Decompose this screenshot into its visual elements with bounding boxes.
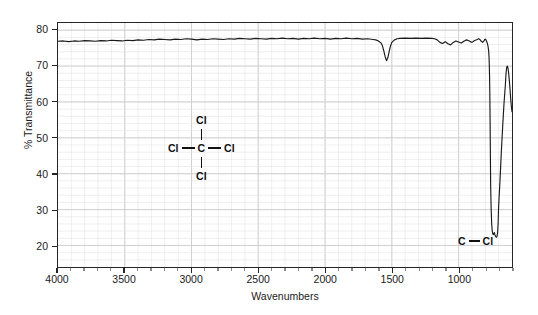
x-tick-mark-minor: [311, 268, 312, 271]
x-tick-label: 1500: [362, 273, 422, 285]
molecule-bond-top: [168, 127, 235, 141]
x-tick-label: 2000: [295, 273, 355, 285]
x-tick-mark-minor: [284, 268, 285, 271]
molecule-atom-center: C: [198, 143, 206, 154]
bond-vertical-bottom-icon: [201, 157, 203, 168]
bond-vertical-top-icon: [201, 129, 203, 140]
molecule-atom-right: Cl: [224, 143, 235, 154]
spectrum-curve: [58, 23, 512, 267]
x-tick-mark-minor: [217, 268, 218, 271]
x-tick-mark-minor: [378, 268, 379, 271]
x-tick-mark-minor: [338, 268, 339, 271]
molecule-top-row: Cl: [168, 113, 235, 127]
x-tick-mark-minor: [110, 268, 111, 271]
x-tick-mark-minor: [150, 268, 151, 271]
x-tick-mark-minor: [445, 268, 446, 271]
bond-horizontal-right-icon: [208, 147, 221, 149]
ccl-bond-icon: [469, 240, 480, 242]
x-tick-mark-minor: [244, 268, 245, 271]
x-tick-mark-minor: [164, 268, 165, 271]
x-tick-label: 2500: [228, 273, 288, 285]
ir-spectrum-figure: 20304050607080 4000350030002500200015001…: [0, 0, 538, 315]
plot-area: [57, 22, 513, 268]
ccl-peak-label-left: C: [458, 235, 466, 247]
molecule-bond-bottom: [168, 155, 235, 169]
y-tick-mark: [52, 65, 57, 66]
y-tick-label: 20: [0, 241, 48, 251]
x-tick-mark-minor: [83, 268, 84, 271]
x-tick-mark-minor: [499, 268, 500, 271]
molecule-atom-left: Cl: [168, 143, 179, 154]
y-tick-mark: [52, 137, 57, 138]
molecule-atom-bottom: Cl: [196, 171, 207, 182]
y-tick-mark: [52, 101, 57, 102]
y-axis-label: % Transmittance: [22, 40, 34, 180]
x-tick-mark-minor: [365, 268, 366, 271]
x-axis-label: Wavenumbers: [57, 290, 513, 302]
x-tick-mark-minor: [405, 268, 406, 271]
x-tick-mark-minor: [432, 268, 433, 271]
molecule-atom-top: Cl: [196, 115, 207, 126]
x-tick-mark-minor: [70, 268, 71, 271]
x-tick-mark-minor: [472, 268, 473, 271]
x-tick-mark-minor: [512, 268, 513, 271]
x-tick-mark-minor: [177, 268, 178, 271]
x-tick-mark-minor: [271, 268, 272, 271]
x-tick-mark-minor: [298, 268, 299, 271]
x-tick-mark-minor: [486, 268, 487, 271]
x-tick-label: 3000: [161, 273, 221, 285]
spectrum-line: [58, 38, 512, 237]
ccl-peak-label-right: Cl: [483, 235, 494, 247]
molecule-bottom-row: Cl: [168, 169, 235, 183]
x-tick-mark-minor: [419, 268, 420, 271]
x-tick-mark-minor: [97, 268, 98, 271]
x-tick-mark-minor: [351, 268, 352, 271]
y-tick-mark: [52, 246, 57, 247]
y-tick-mark: [52, 173, 57, 174]
molecule-structure-annotation: Cl Cl C Cl Cl: [168, 113, 235, 183]
x-tick-label: 1000: [429, 273, 489, 285]
y-tick-mark: [52, 210, 57, 211]
ccl-peak-label: C Cl: [458, 235, 493, 247]
x-tick-mark-minor: [204, 268, 205, 271]
x-tick-mark-minor: [231, 268, 232, 271]
x-tick-label: 4000: [27, 273, 87, 285]
x-tick-mark-minor: [137, 268, 138, 271]
x-tick-label: 3500: [94, 273, 154, 285]
y-tick-mark: [52, 29, 57, 30]
y-tick-label: 80: [0, 24, 48, 34]
molecule-center-row: Cl C Cl: [168, 141, 235, 155]
y-tick-label: 30: [0, 205, 48, 215]
bond-horizontal-left-icon: [182, 147, 195, 149]
